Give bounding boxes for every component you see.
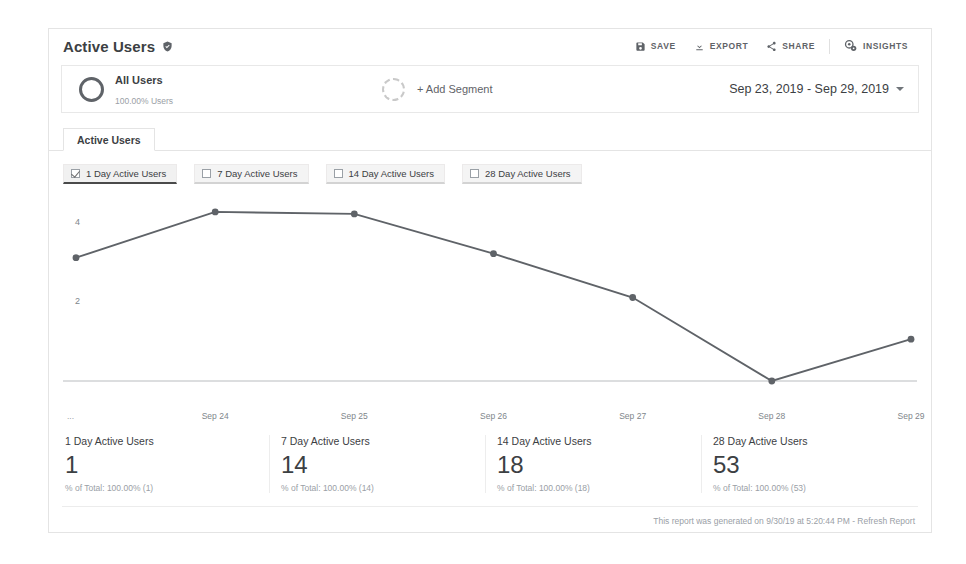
summary-value: 14 (281, 452, 485, 477)
summary-14-day: 14 Day Active Users 18 % of Total: 100.0… (485, 435, 701, 493)
summary-value: 53 (713, 452, 917, 477)
save-button-label: SAVE (651, 41, 676, 51)
share-button[interactable]: SHARE (757, 37, 824, 56)
summary-percent: % of Total: 100.00% (1) (65, 483, 269, 493)
checkbox-checked-icon[interactable] (71, 169, 80, 178)
insights-button-label: INSIGHTS (863, 41, 908, 51)
chip-28-day-active-users[interactable]: 28 Day Active Users (462, 164, 582, 184)
save-button[interactable]: SAVE (626, 37, 685, 56)
segment-name: All Users (115, 74, 163, 86)
report-footer: This report was generated on 9/30/19 at … (49, 507, 931, 526)
checkbox-unchecked-icon[interactable] (334, 169, 343, 178)
x-tick-sep-25: Sep 25 (341, 411, 368, 421)
page-title: Active Users (63, 38, 155, 55)
chip-label: 28 Day Active Users (485, 168, 571, 179)
date-range-label: Sep 23, 2019 - Sep 29, 2019 (729, 82, 889, 96)
chart-plot (63, 192, 917, 407)
tab-strip: Active Users (49, 127, 931, 151)
insights-button[interactable]: INSIGHTS (835, 35, 917, 57)
summary-7-day: 7 Day Active Users 14 % of Total: 100.00… (269, 435, 485, 493)
segment-ring-dashed-icon (382, 78, 405, 101)
summary-value: 18 (497, 452, 701, 477)
footer-text: This report was generated on 9/30/19 at … (653, 516, 857, 526)
report-toolbar: SAVE EXPORT SHARE (626, 35, 917, 57)
segment-all-users[interactable]: All Users 100.00% Users (62, 69, 362, 109)
active-users-line-chart[interactable]: ... 24Sep 24Sep 25Sep 26Sep 27Sep 28Sep … (63, 192, 917, 424)
x-tick-sep-27: Sep 27 (619, 411, 646, 421)
export-download-icon (694, 41, 705, 52)
summary-name: 28 Day Active Users (713, 435, 917, 447)
save-disk-icon (635, 41, 646, 52)
summary-percent: % of Total: 100.00% (53) (713, 483, 917, 493)
chip-7-day-active-users[interactable]: 7 Day Active Users (194, 164, 308, 184)
share-button-label: SHARE (782, 41, 815, 51)
segment-bar: All Users 100.00% Users + Add Segment Se… (61, 65, 919, 113)
x-tick-sep-28: Sep 28 (758, 411, 785, 421)
refresh-report-link[interactable]: Refresh Report (857, 516, 915, 526)
summary-28-day: 28 Day Active Users 53 % of Total: 100.0… (701, 435, 917, 493)
chip-1-day-active-users[interactable]: 1 Day Active Users (63, 164, 177, 184)
insights-gear-icon (844, 39, 858, 53)
metric-chip-row: 1 Day Active Users 7 Day Active Users 14… (49, 151, 931, 184)
toolbar-divider (829, 39, 830, 54)
share-nodes-icon (766, 41, 777, 52)
summary-name: 14 Day Active Users (497, 435, 701, 447)
segment-sublabel: 100.00% Users (115, 96, 173, 106)
report-card: Active Users SAVE (48, 28, 932, 533)
chevron-down-icon (896, 87, 904, 91)
summary-percent: % of Total: 100.00% (18) (497, 483, 701, 493)
y-tick-2: 2 (75, 296, 80, 306)
tab-label: Active Users (77, 134, 141, 146)
summary-1-day: 1 Day Active Users 1 % of Total: 100.00%… (63, 435, 269, 493)
checkbox-unchecked-icon[interactable] (470, 169, 479, 178)
add-segment-button[interactable]: + Add Segment (382, 78, 493, 101)
chip-label: 7 Day Active Users (217, 168, 297, 179)
chip-label: 14 Day Active Users (349, 168, 435, 179)
checkbox-unchecked-icon[interactable] (202, 169, 211, 178)
x-tick-sep-24: Sep 24 (202, 411, 229, 421)
date-range-picker[interactable]: Sep 23, 2019 - Sep 29, 2019 (729, 82, 904, 96)
x-axis-ellipsis: ... (67, 411, 74, 421)
chip-14-day-active-users[interactable]: 14 Day Active Users (326, 164, 446, 184)
summary-name: 1 Day Active Users (65, 435, 269, 447)
export-button[interactable]: EXPORT (685, 37, 758, 56)
export-button-label: EXPORT (710, 41, 749, 51)
x-tick-sep-26: Sep 26 (480, 411, 507, 421)
title-row: Active Users SAVE (49, 29, 931, 63)
summary-value: 1 (65, 452, 269, 477)
x-tick-sep-29: Sep 29 (898, 411, 925, 421)
summary-percent: % of Total: 100.00% (14) (281, 483, 485, 493)
add-segment-label: + Add Segment (417, 83, 493, 95)
chip-label: 1 Day Active Users (86, 168, 166, 179)
tab-active-users[interactable]: Active Users (63, 128, 155, 151)
metric-summary-row: 1 Day Active Users 1 % of Total: 100.00%… (49, 435, 931, 493)
summary-name: 7 Day Active Users (281, 435, 485, 447)
segment-ring-icon (79, 77, 104, 102)
verified-shield-icon (162, 41, 173, 52)
y-tick-4: 4 (75, 217, 80, 227)
